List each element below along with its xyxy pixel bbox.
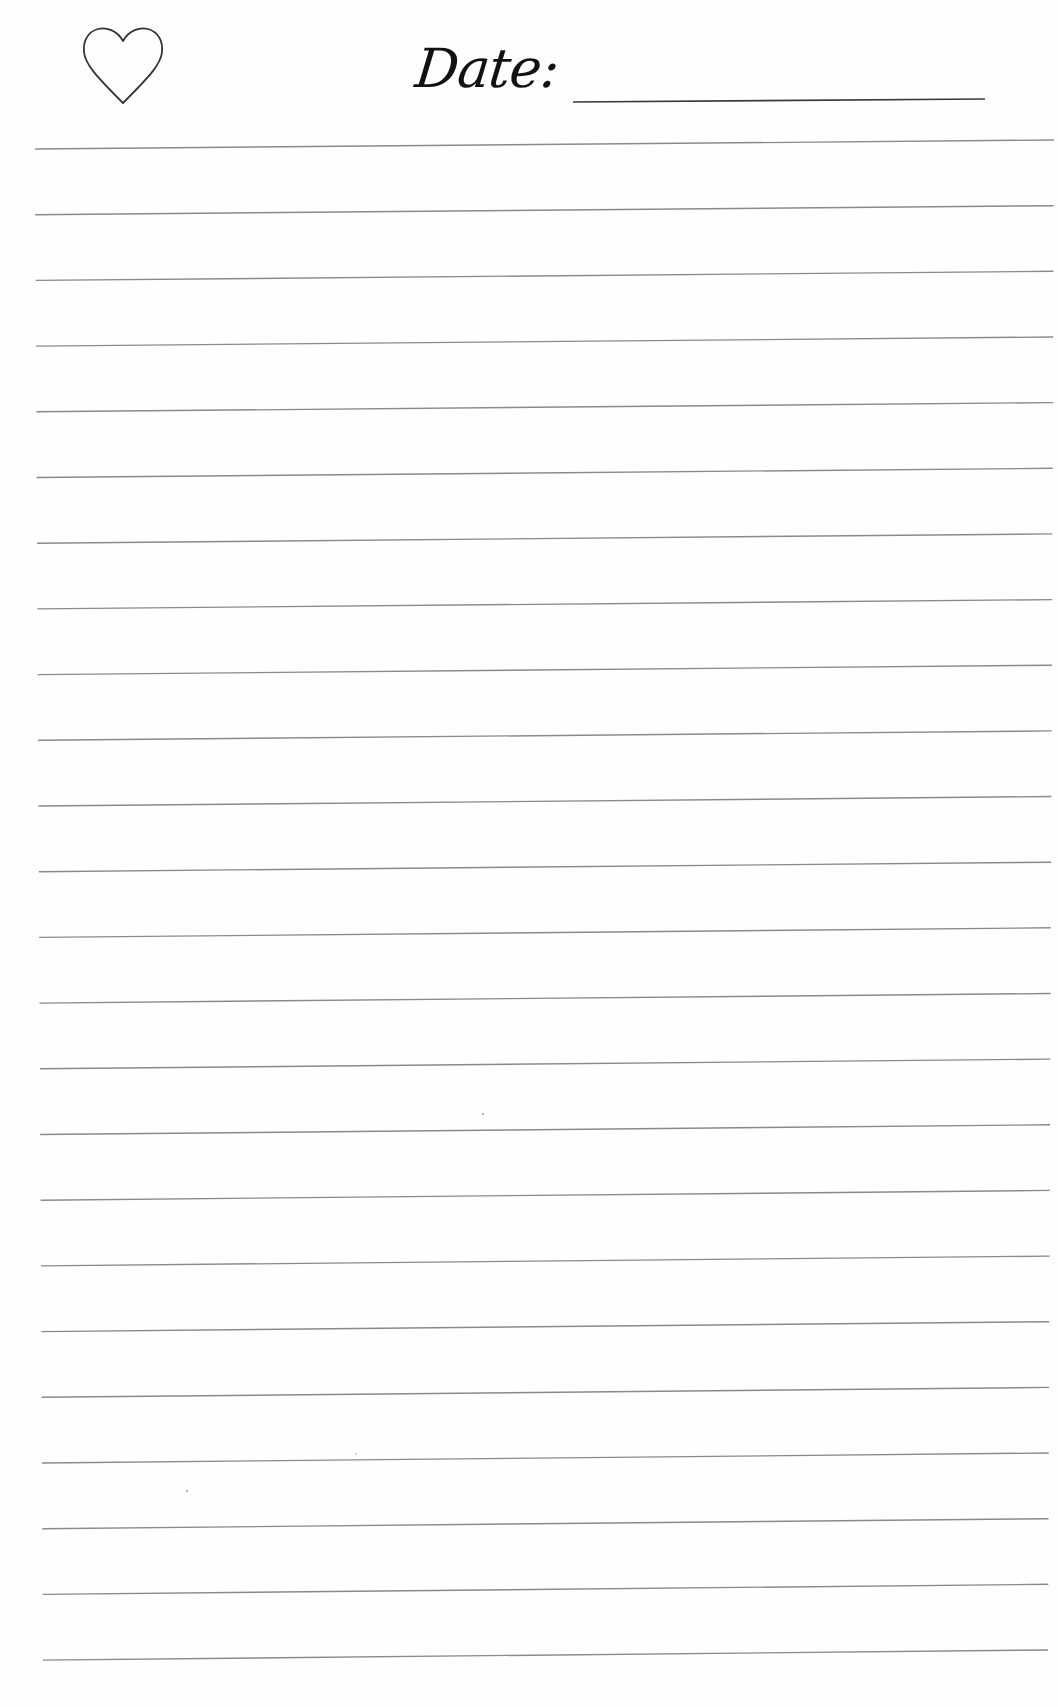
date-input[interactable] [573,84,985,104]
heart-icon [80,24,166,106]
ruled-line [35,140,1054,149]
paper-speck [186,1490,188,1492]
writing-area[interactable] [36,150,1050,1680]
paper-speck [482,1113,484,1115]
journal-page: Date: [0,0,1058,1707]
paper-speck [355,1453,357,1455]
date-label: Date: [412,34,562,104]
